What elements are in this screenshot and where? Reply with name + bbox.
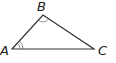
vertex-label-b: B (37, 0, 46, 14)
angle-arc-b (38, 19, 49, 22)
angle-arc-a-inner (17, 43, 20, 49)
vertex-label-a: A (0, 43, 9, 58)
triangle-abc (12, 15, 94, 49)
triangle-diagram: B A C (0, 0, 116, 63)
vertex-label-c: C (98, 43, 108, 58)
